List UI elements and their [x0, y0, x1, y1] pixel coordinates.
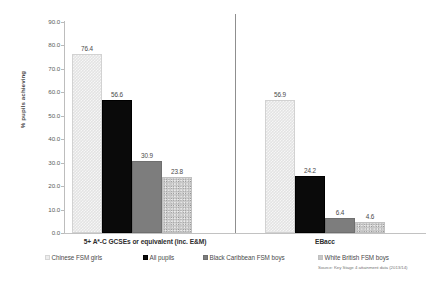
y-tick-label: 30.0	[30, 159, 60, 166]
legend-swatch-icon-white-british-fsm-boys	[318, 255, 323, 260]
y-tick-label: 40.0	[30, 135, 60, 142]
y-tick-mark	[61, 22, 64, 23]
category-label-gcse: 5+ A*-C GCSEs or equivalent (inc. E&M)	[54, 238, 236, 245]
bar-chart: % pupils achieving 0.010.020.030.040.050…	[0, 0, 437, 285]
y-axis-title: % pupils achieving	[19, 30, 26, 170]
y-axis-line	[64, 21, 65, 234]
legend-item-white-british-fsm-boys: White British FSM boys	[318, 254, 389, 261]
y-tick-label: 20.0	[30, 182, 60, 189]
legend-item-chinese-fsm-girls: Chinese FSM girls	[45, 254, 102, 261]
legend-item-black-caribbean-fsm-boys: Black Caribbean FSM boys	[203, 254, 285, 261]
bar-value-label: 56.9	[260, 91, 300, 98]
bar	[162, 177, 192, 233]
group-separator-line	[235, 14, 236, 233]
legend-label-black-caribbean-fsm-boys: Black Caribbean FSM boys	[210, 254, 285, 261]
bar-value-label: 23.8	[157, 168, 197, 175]
legend-label-white-british-fsm-boys: White British FSM boys	[325, 254, 389, 261]
y-tick-label: 50.0	[30, 112, 60, 119]
y-tick-label: 80.0	[30, 41, 60, 48]
legend-swatch-icon-black-caribbean-fsm-boys	[203, 255, 208, 260]
bar-value-label: 76.4	[67, 45, 107, 52]
bar-value-label: 56.6	[97, 91, 137, 98]
y-tick-mark	[61, 139, 64, 140]
y-tick-mark	[61, 69, 64, 70]
y-tick-label: 70.0	[30, 65, 60, 72]
y-tick-label: 60.0	[30, 88, 60, 95]
y-tick-mark	[61, 186, 64, 187]
legend-item-all-pupils: All pupils	[143, 254, 174, 261]
y-tick-mark	[61, 210, 64, 211]
category-label-ebacc: EBacc	[285, 238, 365, 245]
y-tick-mark	[61, 45, 64, 46]
y-tick-mark	[61, 116, 64, 117]
y-tick-label: 0.0	[30, 229, 60, 236]
bar	[325, 218, 355, 233]
x-axis-line	[64, 233, 426, 234]
bar-value-label: 30.9	[127, 152, 167, 159]
source-note: Source: Key Stage 4 attainment data (201…	[318, 265, 408, 270]
bar-value-label: 24.2	[290, 167, 330, 174]
legend-label-chinese-fsm-girls: Chinese FSM girls	[52, 254, 103, 261]
y-tick-mark	[61, 163, 64, 164]
y-tick-label: 90.0	[30, 18, 60, 25]
bar	[102, 100, 132, 233]
legend-swatch-icon-chinese-fsm-girls	[45, 255, 50, 260]
legend-label-all-pupils: All pupils	[150, 254, 175, 261]
bar	[295, 176, 325, 233]
bar-value-label: 4.6	[350, 213, 390, 220]
y-tick-mark	[61, 92, 64, 93]
legend-swatch-icon-all-pupils	[143, 255, 148, 260]
bar	[72, 54, 102, 233]
y-tick-label: 10.0	[30, 206, 60, 213]
bar	[355, 222, 385, 233]
